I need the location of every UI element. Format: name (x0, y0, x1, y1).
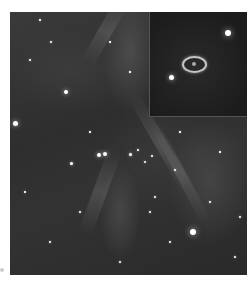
star (154, 196, 156, 198)
star (234, 256, 236, 258)
star (64, 90, 68, 94)
star (129, 153, 132, 156)
star (13, 121, 18, 126)
inset-closeup (149, 12, 247, 117)
star (103, 152, 107, 156)
star (70, 162, 73, 165)
star (79, 211, 81, 213)
star (225, 30, 231, 36)
star (144, 161, 146, 163)
star (239, 216, 241, 218)
star (209, 201, 211, 203)
star (29, 59, 31, 61)
star (151, 155, 153, 157)
star (174, 169, 176, 171)
star (149, 211, 151, 213)
star (49, 241, 51, 243)
star (119, 261, 121, 263)
star (39, 19, 41, 21)
filament (78, 147, 122, 236)
star (169, 241, 171, 243)
star (129, 71, 131, 73)
star (169, 75, 174, 80)
page-mark (0, 268, 4, 272)
star (179, 131, 181, 133)
star (97, 153, 101, 157)
star (50, 41, 52, 43)
star (24, 191, 26, 193)
star (190, 229, 196, 235)
filament (150, 121, 210, 223)
ring-central-star (192, 62, 196, 66)
filament (81, 12, 128, 66)
star (109, 41, 111, 43)
star (137, 149, 139, 151)
astronomical-photo (10, 12, 247, 275)
star (219, 151, 221, 153)
star (89, 131, 91, 133)
